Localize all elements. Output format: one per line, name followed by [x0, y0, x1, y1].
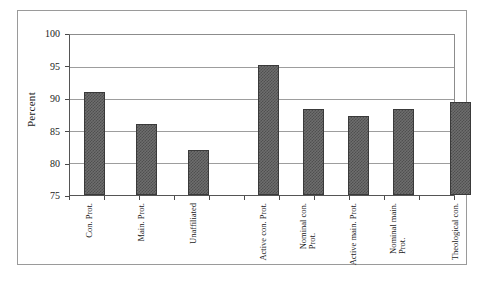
- x-tick-mark: [174, 196, 175, 200]
- y-tick-label: 95: [14, 62, 60, 72]
- bar: [188, 150, 209, 195]
- bar: [258, 65, 279, 195]
- figure: Percent 100 95 90 85 80 75: [0, 0, 489, 284]
- bar: [303, 109, 324, 195]
- x-tick-mark: [69, 196, 70, 200]
- x-tick-label-line1: Active con. Prot.: [258, 203, 268, 261]
- x-tick-label-line1: Con. Prot.: [84, 203, 94, 238]
- x-tick-mark: [139, 196, 140, 200]
- x-tick-label-line1: Active main. Prot.: [348, 203, 358, 265]
- x-tick-mark: [209, 196, 210, 200]
- x-tick-mark: [384, 196, 385, 200]
- bar: [393, 109, 414, 195]
- x-tick-mark: [314, 196, 315, 200]
- x-tick-label-line1: Main. Prot.: [136, 203, 146, 242]
- x-tick-mark: [419, 196, 420, 200]
- x-tick-label: Nominal con. Prot.: [299, 203, 317, 249]
- x-tick-label: Active con. Prot.: [259, 203, 268, 261]
- x-tick-label: Con. Prot.: [85, 203, 94, 238]
- y-tick-label: 85: [14, 127, 60, 137]
- x-tick-mark: [244, 196, 245, 200]
- x-tick-mark: [104, 196, 105, 200]
- x-tick-label: Theological con.: [451, 203, 460, 260]
- x-tick-label: Main. Prot.: [137, 203, 146, 242]
- x-tick-mark: [454, 196, 455, 200]
- bar: [136, 124, 157, 195]
- y-tick-label: 100: [14, 29, 60, 39]
- x-tick-mark: [349, 196, 350, 200]
- y-tick-label: 80: [14, 159, 60, 169]
- x-tick-label-line1: Unaffiliated: [188, 203, 198, 244]
- plot-area: [69, 34, 455, 196]
- x-tick-label-line2: Prot.: [308, 203, 317, 249]
- bar: [348, 116, 369, 195]
- y-tick-label: 75: [14, 191, 60, 201]
- x-tick-label-line2: Prot.: [398, 203, 407, 254]
- x-tick-label: Unaffiliated: [189, 203, 198, 244]
- x-tick-label: Active main. Prot.: [349, 203, 358, 265]
- x-tick-label-line1: Theological con.: [450, 203, 460, 260]
- bar: [84, 92, 105, 195]
- bar: [450, 102, 471, 195]
- x-tick-label: Nominal main. Prot.: [389, 203, 407, 254]
- x-tick-mark: [279, 196, 280, 200]
- y-tick-label: 90: [14, 94, 60, 104]
